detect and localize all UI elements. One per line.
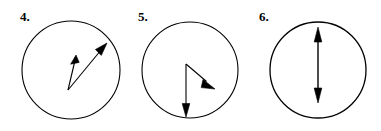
figure-4-drawing [0,0,130,131]
figure-6: 6. [250,0,381,131]
circle-outline-4 [22,21,120,119]
figure-set: 4. 5. [0,0,381,131]
vector-6-double-headed [314,27,322,103]
figure-6-drawing [250,0,381,131]
vector-4-short [68,55,79,90]
figure-5-drawing [130,0,250,131]
figure-5: 5. [130,0,250,131]
vector-5-vertical [182,64,190,117]
vector-5-diagonal [186,64,215,89]
arrowhead-down [314,88,322,103]
arrowhead-up [314,27,322,42]
figure-4: 4. [0,0,130,131]
